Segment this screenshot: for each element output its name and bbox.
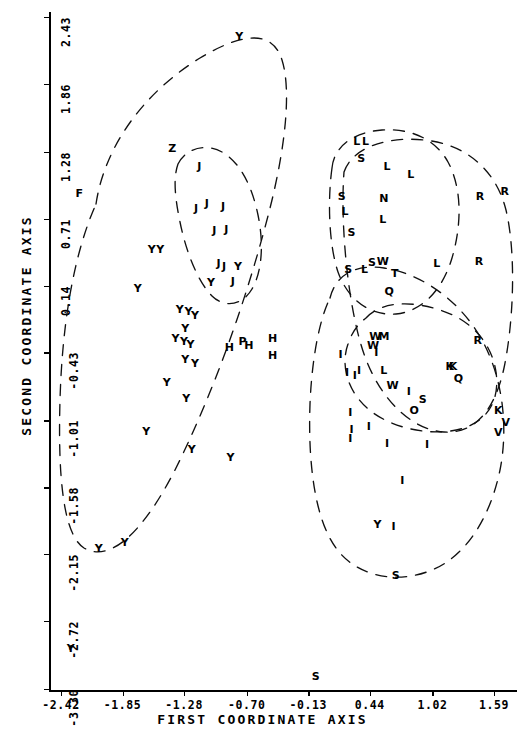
- data-point-i: I: [374, 347, 378, 358]
- data-point-s: S: [344, 264, 352, 275]
- data-point-h: H: [225, 341, 234, 352]
- data-point-y: Y: [182, 393, 190, 404]
- data-point-w: W: [386, 380, 398, 391]
- plot-points-layer: YZJFJJJJJYYJJYYJYYYYYYYYHPHHHYYYYYYYYYYL…: [0, 0, 525, 734]
- data-point-s: S: [338, 191, 346, 202]
- data-point-i: I: [425, 438, 429, 449]
- data-point-y: Y: [171, 333, 179, 344]
- data-point-y: Y: [181, 322, 189, 333]
- data-point-h: H: [268, 349, 277, 360]
- data-point-i: I: [400, 475, 404, 486]
- data-point-y: Y: [207, 277, 215, 288]
- data-point-i: I: [357, 365, 361, 376]
- data-point-r: R: [476, 191, 484, 202]
- data-point-l: L: [361, 264, 368, 275]
- data-point-y: Y: [187, 339, 195, 350]
- data-point-h: H: [268, 333, 277, 344]
- data-point-s: S: [368, 257, 376, 268]
- data-point-n: N: [379, 192, 388, 203]
- data-point-y: Y: [373, 518, 381, 529]
- data-point-o: O: [409, 404, 418, 415]
- data-point-l: L: [362, 136, 369, 147]
- scatter-plot-figure: SECOND COORDINATE AXIS -2.42-1.85-1.28-0…: [0, 0, 525, 734]
- data-point-y: Y: [227, 451, 235, 462]
- data-point-y: Y: [156, 244, 164, 255]
- data-point-k: K: [449, 361, 458, 372]
- data-point-l: L: [433, 258, 440, 269]
- data-point-y: Y: [176, 304, 184, 315]
- data-point-y: Y: [191, 357, 199, 368]
- data-point-l: L: [353, 136, 360, 147]
- data-point-l: L: [384, 160, 391, 171]
- data-point-l: L: [379, 213, 386, 224]
- data-point-s: S: [347, 226, 355, 237]
- data-point-j: J: [197, 160, 201, 171]
- data-point-i: I: [345, 367, 349, 378]
- data-point-y: Y: [67, 642, 75, 653]
- data-point-l: L: [407, 169, 414, 180]
- data-point-s: S: [419, 394, 427, 405]
- data-point-f: F: [76, 187, 84, 198]
- data-point-q: Q: [454, 373, 463, 384]
- data-point-j: J: [221, 200, 225, 211]
- data-point-s: S: [357, 152, 365, 163]
- data-point-i: I: [348, 433, 352, 444]
- data-point-h: H: [244, 340, 253, 351]
- data-point-j: J: [212, 225, 216, 236]
- data-point-i: I: [348, 407, 352, 418]
- data-point-r: R: [474, 334, 482, 345]
- data-point-y: Y: [121, 537, 129, 548]
- data-point-y: Y: [181, 354, 189, 365]
- data-point-y: Y: [234, 260, 242, 271]
- data-point-r: R: [475, 255, 483, 266]
- data-point-v: V: [494, 427, 503, 438]
- data-point-l: L: [380, 365, 387, 376]
- data-point-l: L: [341, 205, 348, 216]
- data-point-t: T: [391, 267, 399, 278]
- data-point-y: Y: [235, 30, 243, 41]
- data-point-j: J: [231, 275, 235, 286]
- data-point-i: I: [392, 520, 396, 531]
- data-point-z: Z: [168, 143, 176, 154]
- data-point-j: J: [222, 260, 226, 271]
- data-point-y: Y: [163, 376, 171, 387]
- data-point-w: W: [377, 255, 389, 266]
- data-point-j: J: [194, 203, 198, 214]
- data-point-j: J: [224, 224, 228, 235]
- data-point-m: M: [378, 330, 389, 341]
- data-point-y: Y: [95, 543, 103, 554]
- data-point-y: Y: [188, 443, 196, 454]
- data-point-y: Y: [134, 282, 142, 293]
- data-point-j: J: [205, 198, 209, 209]
- data-point-j: J: [217, 258, 221, 269]
- data-point-i: I: [339, 348, 343, 359]
- data-point-y: Y: [142, 425, 150, 436]
- data-point-q: Q: [385, 286, 394, 297]
- data-point-r: R: [501, 185, 509, 196]
- data-point-s: S: [312, 671, 320, 682]
- data-point-k: K: [494, 404, 503, 415]
- data-point-y: Y: [191, 309, 199, 320]
- data-point-i: I: [367, 421, 371, 432]
- data-point-i: I: [407, 386, 411, 397]
- data-point-y: Y: [148, 244, 156, 255]
- data-point-i: I: [385, 437, 389, 448]
- data-point-s: S: [392, 570, 400, 581]
